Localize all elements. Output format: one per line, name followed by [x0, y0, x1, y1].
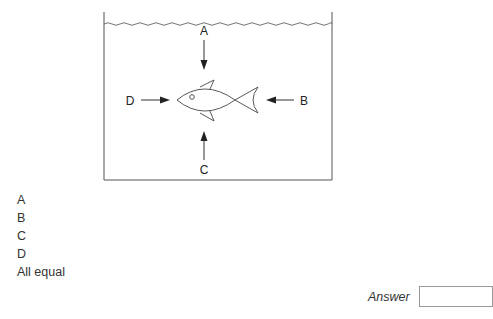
- tank-diagram: A C D B: [0, 0, 456, 190]
- option-all-equal[interactable]: All equal: [17, 263, 65, 281]
- label-b: B: [300, 94, 308, 108]
- option-a[interactable]: A: [17, 191, 65, 209]
- answer-options: A B C D All equal: [17, 191, 65, 281]
- label-c: C: [200, 163, 209, 177]
- option-d[interactable]: D: [17, 245, 65, 263]
- option-c[interactable]: C: [17, 227, 65, 245]
- water-surface: [104, 23, 332, 26]
- arrow-a: [201, 40, 208, 70]
- arrow-d: [141, 97, 170, 104]
- answer-input[interactable]: [419, 286, 493, 307]
- label-d: D: [126, 94, 135, 108]
- arrow-c: [201, 131, 208, 160]
- option-b[interactable]: B: [17, 209, 65, 227]
- answer-row: Answer: [368, 286, 493, 307]
- fish-icon: [177, 80, 258, 121]
- label-a: A: [200, 24, 208, 38]
- arrow-b: [266, 97, 294, 104]
- answer-label: Answer: [368, 290, 410, 304]
